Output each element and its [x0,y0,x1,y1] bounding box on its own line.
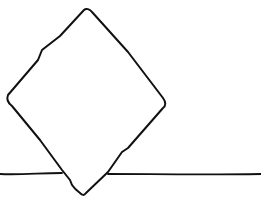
diamond-shape [7,9,165,195]
ground-line-left [0,173,62,174]
sketch-canvas [0,0,261,199]
